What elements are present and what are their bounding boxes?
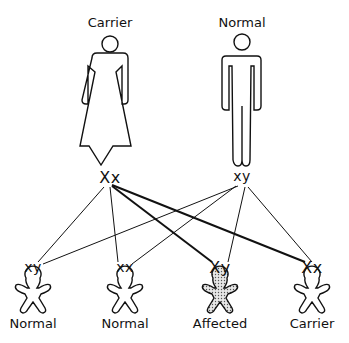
child-label-1: Normal <box>9 316 56 331</box>
pedigree-diagram <box>0 0 349 343</box>
male-icon <box>222 34 261 166</box>
parent-genotype-mother: Xx <box>99 168 120 187</box>
female-icon <box>80 36 131 165</box>
child-label-2: Normal <box>101 316 148 331</box>
parent-genotype-father: xy <box>233 168 251 184</box>
parent-label-normal: Normal <box>218 15 265 30</box>
child-label-4: Carrier <box>290 316 334 331</box>
child-genotype-2: xx <box>116 259 134 275</box>
inheritance-lines <box>38 185 312 264</box>
child-genotype-1: xy <box>24 259 42 275</box>
parent-label-carrier: Carrier <box>88 15 132 30</box>
child-genotype-3: Xy <box>209 258 230 277</box>
child-genotype-4: Xx <box>301 258 322 277</box>
child-label-3: Affected <box>193 316 247 331</box>
